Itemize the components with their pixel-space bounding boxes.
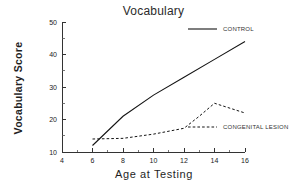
x-tick-label: 10: [150, 157, 158, 164]
plot-area: 468101214161020304050 CONTROLCONGENITAL …: [0, 0, 307, 189]
y-tick-label: 20: [49, 116, 57, 123]
y-tick-label: 10: [49, 149, 57, 156]
series-line-congenital-lesion: [93, 103, 246, 139]
ticks-group: [62, 22, 245, 152]
x-tick-label: 8: [121, 157, 125, 164]
legend-label: CONTROL: [223, 26, 254, 32]
x-tick-label: 16: [241, 157, 249, 164]
x-tick-label: 6: [91, 157, 95, 164]
y-tick-label: 50: [49, 19, 57, 26]
axes-group: [62, 22, 245, 152]
legend-label: CONGENITAL LESION: [223, 124, 288, 130]
x-tick-label: 12: [180, 157, 188, 164]
x-tick-label: 4: [60, 157, 64, 164]
tick-labels-group: 468101214161020304050: [49, 19, 249, 165]
x-tick-label: 14: [211, 157, 219, 164]
y-tick-label: 30: [49, 84, 57, 91]
chart-legend: CONTROLCONGENITAL LESION: [188, 26, 288, 130]
y-tick-label: 40: [49, 51, 57, 58]
x-axis-title: Age at Testing: [62, 168, 246, 180]
vocabulary-line-chart: Vocabulary Vocabulary Score 468101214161…: [0, 0, 307, 189]
